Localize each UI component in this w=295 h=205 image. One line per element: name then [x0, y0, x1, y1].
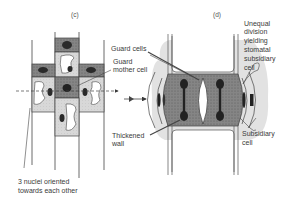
nucleus: [83, 88, 88, 96]
label-thickened-wall-1: Thickened: [112, 132, 144, 139]
label-guard-mother-cell-2: mother cell: [113, 66, 148, 73]
nucleus: [242, 92, 245, 108]
label-guard-cells: Guard cells: [111, 45, 147, 52]
nucleus: [62, 41, 72, 49]
panel-c-cell-grid: [32, 32, 104, 178]
label-nuclei-1: 3 nuclei oriented: [18, 178, 69, 185]
label-unequal-6: cell: [244, 64, 255, 71]
nucleus: [157, 93, 160, 107]
leader-nuclei: [24, 108, 30, 168]
label-unequal-5: subsidiary: [244, 55, 276, 63]
panel-label-c: (c): [71, 11, 79, 19]
label-unequal-4: stomatal: [244, 46, 271, 53]
nucleus: [48, 88, 53, 96]
label-unequal-1: Unequal: [244, 20, 271, 28]
nucleus: [250, 94, 254, 106]
label-subsidiary-1: Subsidiary: [242, 130, 275, 138]
label-guard-mother-cell-1: Guard: [113, 58, 133, 65]
panel-label-d: (d): [213, 11, 221, 19]
label-unequal-3: yielding: [244, 37, 268, 45]
stomata-development-diagram: (c) (d) Gu: [0, 0, 295, 205]
label-nuclei-2: towards each other: [18, 187, 78, 194]
label-unequal-2: division: [244, 28, 267, 35]
label-thickened-wall-2: wall: [111, 140, 125, 147]
label-subsidiary-2: cell: [242, 139, 253, 146]
